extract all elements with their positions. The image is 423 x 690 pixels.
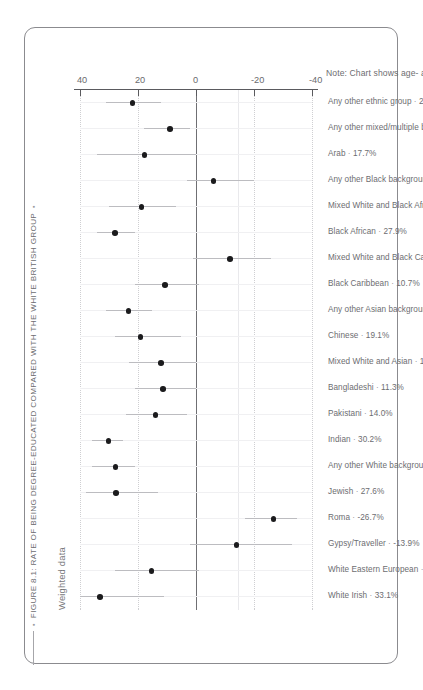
error-bar (115, 570, 199, 571)
data-point[interactable] (139, 204, 145, 210)
error-bar (190, 544, 292, 545)
category-value-label: 33.1% (375, 591, 398, 600)
gridline-20 (138, 90, 139, 610)
axis-tick-label: 40 (70, 75, 110, 85)
error-bar (86, 492, 159, 493)
data-point[interactable] (149, 568, 155, 574)
data-point[interactable] (126, 308, 132, 314)
category-label-separator: · (362, 409, 369, 418)
category-guide (80, 414, 312, 415)
error-bar (115, 336, 182, 337)
category-label: Bangladeshi · 11.3% (328, 383, 423, 395)
category-label-name: Pakistani (328, 409, 362, 418)
category-label-name: Mixed White and Asian (328, 357, 412, 366)
data-point[interactable] (138, 334, 144, 340)
axis-tick-label: 0 (186, 75, 226, 85)
category-value-label: 30.2% (358, 435, 381, 444)
category-label: Roma · -26.7% (328, 513, 423, 525)
data-point[interactable] (112, 230, 118, 236)
category-label-name: Jewish (328, 487, 353, 496)
data-point[interactable] (211, 178, 217, 184)
gridline-40 (80, 90, 81, 610)
axis-label: Weighted data (56, 547, 67, 610)
category-label: Any other White background · 27.8% (328, 461, 423, 473)
category-value-label: 11.3% (381, 383, 404, 392)
category-label: Any other mixed/multiple background · 9.… (328, 123, 423, 135)
category-label-name: Bangladeshi (328, 383, 374, 392)
axis-tick-label: 20 (128, 75, 168, 85)
category-label-name: Any other White background (328, 461, 423, 470)
category-label: Mixed White and Black Caribbean · -11.7% (328, 253, 423, 265)
title-bullet-right: ▪ (30, 205, 37, 208)
category-label-separator: · (351, 435, 358, 444)
data-point[interactable] (227, 256, 233, 262)
error-bar (187, 180, 254, 181)
category-guide (80, 388, 312, 389)
category-label: Mixed White and Asian · 12.1% (328, 357, 423, 369)
category-label-name: Chinese (328, 331, 358, 340)
data-point[interactable] (234, 542, 240, 548)
data-point[interactable] (106, 438, 112, 444)
data-point[interactable] (162, 282, 168, 288)
gridline--20 (254, 90, 255, 610)
category-label-name: Arab (328, 149, 346, 158)
category-label: Black Caribbean · 10.7% (328, 279, 423, 291)
data-point[interactable] (153, 412, 159, 418)
axis-tick-mark (80, 90, 81, 96)
category-guide (80, 128, 312, 129)
category-value-label: -13.9% (393, 539, 419, 548)
category-label-name: Any other ethnic group (328, 97, 411, 106)
category-label-separator: · (412, 357, 419, 366)
data-point[interactable] (167, 126, 173, 132)
category-label: Any other Black background · -6.0% (328, 175, 423, 187)
data-point[interactable] (113, 490, 119, 496)
axis-tick-label: -40 (302, 75, 342, 85)
data-point[interactable] (113, 464, 119, 470)
axis-tick-label: -20 (244, 75, 284, 85)
zero-line (196, 90, 197, 610)
category-label-name: Black Caribbean (328, 279, 389, 288)
category-label-separator: · (367, 591, 374, 600)
category-label-name: Indian (328, 435, 351, 444)
category-value-label: 10.7% (396, 279, 419, 288)
category-value-label: 27.6% (361, 487, 384, 496)
category-label-name: Any other Asian background (328, 305, 423, 314)
category-label-name: Black African (328, 227, 376, 236)
category-label: Indian · 30.2% (328, 435, 423, 447)
figure-title-text: FIGURE 8.1: RATE OF BEING DEGREE-EDUCATE… (29, 213, 38, 618)
axis-tick-mark (254, 90, 255, 96)
axis-tick-mark (196, 90, 197, 96)
category-label-name: Gypsy/Traveller (328, 539, 386, 548)
category-label: Chinese · 19.1% (328, 331, 423, 343)
category-value-label: 27.9% (383, 227, 406, 236)
data-point[interactable] (160, 386, 166, 392)
data-point[interactable] (271, 516, 277, 522)
category-label: White Irish · 33.1% (328, 591, 423, 603)
category-value-label: 17.7% (353, 149, 376, 158)
figure-title: ▪ FIGURE 8.1: RATE OF BEING DEGREE-EDUCA… (22, 5, 44, 665)
category-label-name: Mixed White and Black Caribbean (328, 253, 423, 262)
category-label-separator: · (353, 487, 360, 496)
axis-tick-mark (138, 90, 139, 96)
category-label-separator: · (411, 97, 418, 106)
category-label: Black African · 27.9% (328, 227, 423, 239)
category-label-name: Any other mixed/multiple background (328, 123, 423, 132)
gridline--40 (312, 90, 313, 610)
title-rule (33, 631, 34, 665)
category-label-name: Roma (328, 513, 350, 522)
data-point[interactable] (142, 152, 148, 158)
category-label: Arab · 17.7% (328, 149, 423, 161)
category-label: Any other ethnic group · 21.9% (328, 97, 423, 109)
data-point[interactable] (97, 594, 103, 600)
category-value-label: 21.9% (419, 97, 423, 106)
data-point[interactable] (130, 100, 136, 106)
category-label-name: Mixed White and Black African (328, 201, 423, 210)
category-label: Jewish · 27.6% (328, 487, 423, 499)
category-value-label: 14.0% (369, 409, 392, 418)
category-label: Pakistani · 14.0% (328, 409, 423, 421)
data-point[interactable] (158, 360, 164, 366)
chart-container: Weighted data Note: Chart shows age- and… (48, 50, 393, 650)
gridline-faint (238, 90, 239, 610)
category-label: Any other Asian background · 23.3% (328, 305, 423, 317)
category-value-label: -26.7% (357, 513, 383, 522)
